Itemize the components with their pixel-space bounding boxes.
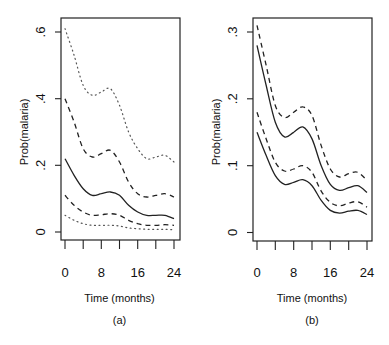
series-line-lower-dotted: [65, 215, 174, 229]
series-line-upper-solid: [257, 45, 367, 192]
series-line-lower-dashed: [65, 195, 174, 225]
x-tick-label-b-2: 16: [323, 265, 337, 280]
x-tick-label-a-3: 24: [167, 265, 181, 280]
x-axis-b: 0 8 16 24 Time (months) (b): [253, 241, 374, 326]
x-tick-label-a-1: 8: [98, 265, 105, 280]
y-axis-label-b: Prob(malaria): [210, 99, 222, 166]
panel-label-b: (b): [305, 314, 318, 326]
x-tick-label-b-1: 8: [290, 265, 297, 280]
x-tick-label-a-2: 16: [130, 265, 144, 280]
curves-a: [65, 29, 174, 230]
x-axis-a: 0 8 16 24 Time (months) (a): [61, 240, 181, 326]
y-tick-label-b-1: .1: [225, 160, 240, 171]
series-line-lower-dashed: [257, 112, 367, 207]
x-tick-label-b-0: 0: [253, 265, 260, 280]
y-tick-label-a-1: .2: [33, 160, 48, 171]
series-line-solid: [65, 159, 174, 219]
plot-frame-a: [61, 18, 180, 240]
y-tick-label-a-2: .4: [33, 93, 48, 104]
x-tick-label-a-0: 0: [61, 265, 68, 280]
series-line-upper-dotted: [65, 29, 174, 162]
y-axis-a: 0 .2 .4 .6 Prob(malaria): [18, 27, 61, 236]
panel-b: 0 .1 .2 .3 Prob(malaria) 0 8 16 24 Time …: [210, 18, 374, 326]
plot-frame-b: [253, 18, 372, 241]
y-tick-label-b-2: .2: [225, 93, 240, 104]
panel-label-a: (a): [113, 314, 126, 326]
x-axis-label-a: Time (months): [84, 292, 155, 304]
y-axis-label-a: Prob(malaria): [18, 99, 30, 166]
x-tick-label-b-3: 24: [360, 265, 374, 280]
panel-a: 0 .2 .4 .6 Prob(malaria) 0 8 16 24 Time …: [18, 18, 181, 326]
y-tick-label-a-0: 0: [33, 228, 48, 235]
curves-b: [257, 25, 367, 214]
x-axis-label-b: Time (months): [277, 292, 348, 304]
y-tick-label-a-3: .6: [33, 27, 48, 38]
y-tick-label-b-0: 0: [225, 229, 240, 236]
series-line-upper-dashed: [65, 99, 174, 197]
figure: 0 .2 .4 .6 Prob(malaria) 0 8 16 24 Time …: [0, 0, 389, 345]
y-tick-label-b-3: .3: [225, 27, 240, 38]
y-axis-b: 0 .1 .2 .3 Prob(malaria): [210, 27, 253, 237]
